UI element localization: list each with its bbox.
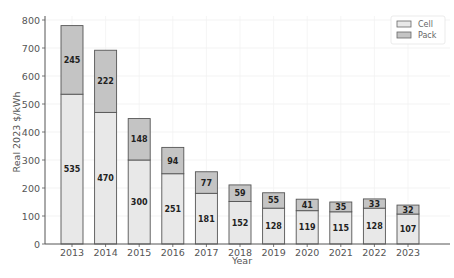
bar-value-label: 128	[265, 222, 282, 231]
bar-segment-cell: 107	[397, 214, 419, 244]
y-tick-label: 100	[22, 211, 40, 222]
x-tick-label: 2013	[60, 247, 84, 258]
bar-segment-cell: 128	[263, 208, 285, 244]
bar-value-label: 245	[64, 56, 81, 65]
bar-value-label: 535	[64, 165, 81, 174]
x-tick-label: 2016	[161, 247, 185, 258]
bar-segment-pack: 41	[296, 199, 318, 210]
x-tick-label: 2019	[262, 247, 286, 258]
bar-segment-pack: 33	[363, 199, 385, 209]
legend: Cell Pack	[391, 16, 445, 44]
y-tick-label: 800	[22, 15, 40, 26]
bar-value-label: 33	[369, 200, 380, 209]
y-tick-label: 500	[22, 99, 40, 110]
bar-segment-cell: 128	[363, 208, 385, 244]
y-ticks: 0100200300400500600700800	[22, 15, 45, 250]
bar-value-label: 251	[164, 205, 181, 214]
y-tick-label: 200	[22, 183, 40, 194]
bar-value-label: 41	[302, 201, 314, 210]
bar-segment-pack: 94	[162, 147, 184, 173]
bar-value-label: 94	[167, 157, 179, 166]
bar-segment-pack: 245	[61, 26, 83, 95]
bar-segment-cell: 152	[229, 201, 251, 244]
y-tick-label: 700	[22, 43, 40, 54]
bar-segment-cell: 115	[330, 212, 352, 244]
x-tick-label: 2017	[194, 247, 218, 258]
bar-segment-cell: 470	[95, 112, 117, 244]
stacked-bar-chart: 5352454702223001482519418177152591285511…	[0, 0, 454, 278]
bar-value-label: 181	[198, 215, 215, 224]
bar-segment-cell: 535	[61, 94, 83, 244]
x-tick-label: 2015	[127, 247, 151, 258]
bar-value-label: 32	[402, 206, 413, 215]
y-tick-label: 600	[22, 71, 40, 82]
bar-value-label: 35	[335, 203, 347, 212]
bar-segment-cell: 251	[162, 174, 184, 244]
x-tick-label: 2023	[396, 247, 420, 258]
bar-value-label: 148	[131, 135, 148, 144]
bar-segment-cell: 119	[296, 211, 318, 244]
y-axis-title: Real 2023 $/kWh	[11, 92, 22, 173]
x-axis-title: Year	[231, 255, 252, 266]
bar-value-label: 119	[299, 223, 316, 232]
bar-value-label: 55	[268, 196, 280, 205]
bar-segment-pack: 222	[95, 50, 117, 112]
bar-segment-pack: 59	[229, 185, 251, 202]
y-tick-label: 400	[22, 127, 40, 138]
bar-segment-pack: 35	[330, 202, 352, 212]
bar-value-label: 128	[366, 222, 383, 231]
bar-value-label: 470	[97, 174, 114, 183]
bar-segment-pack: 32	[397, 205, 419, 214]
bar-segment-pack: 55	[263, 193, 285, 208]
bar-value-label: 77	[201, 179, 212, 188]
legend-swatch-pack	[397, 32, 411, 38]
y-tick-label: 0	[34, 239, 40, 250]
bar-segment-pack: 77	[195, 172, 217, 194]
x-tick-label: 2014	[94, 247, 118, 258]
x-tick-label: 2020	[295, 247, 319, 258]
bar-value-label: 152	[232, 219, 249, 228]
y-tick-label: 300	[22, 155, 40, 166]
legend-swatch-cell	[397, 21, 411, 27]
bar-value-label: 115	[332, 224, 349, 233]
x-tick-label: 2021	[329, 247, 353, 258]
x-tick-label: 2022	[362, 247, 386, 258]
legend-label-cell: Cell	[418, 20, 433, 29]
bar-segment-pack: 148	[128, 119, 150, 160]
bar-value-label: 222	[97, 77, 114, 86]
bar-segment-cell: 181	[195, 193, 217, 244]
bar-value-label: 59	[234, 189, 246, 198]
bar-value-label: 300	[131, 198, 148, 207]
bar-segment-cell: 300	[128, 160, 150, 244]
bar-value-label: 107	[400, 225, 417, 234]
legend-label-pack: Pack	[418, 31, 437, 40]
